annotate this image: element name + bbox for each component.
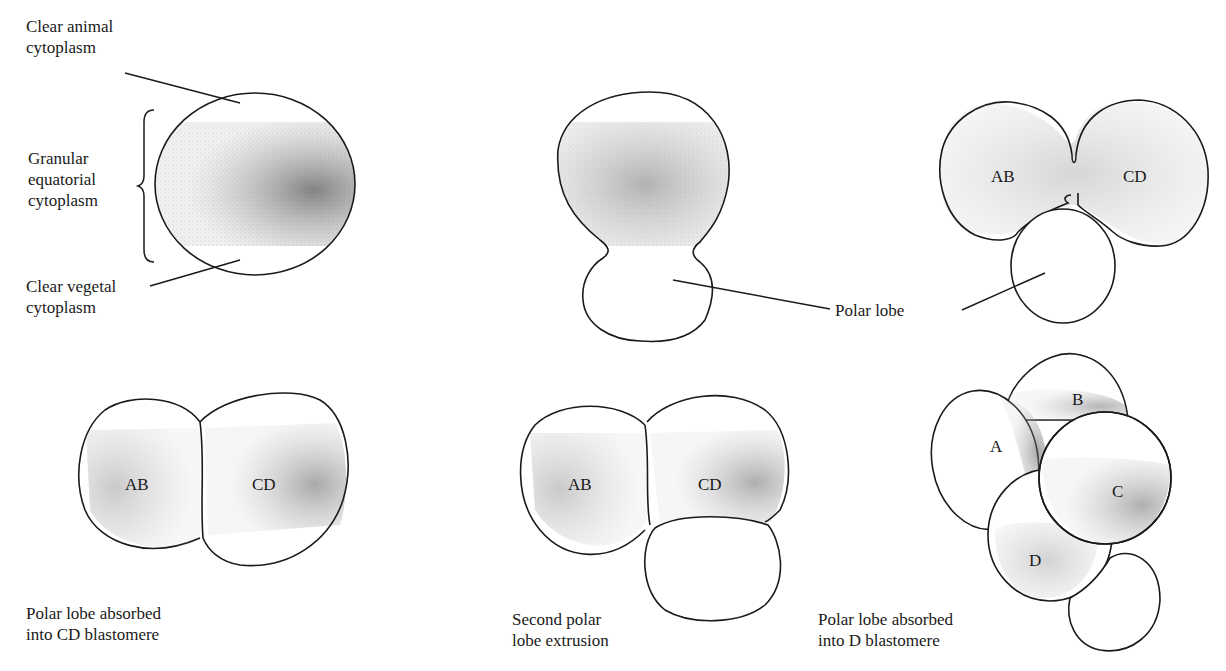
four-cell-stage: B A C D	[921, 354, 1171, 651]
label-clear-animal-cytoplasm: Clear animal cytoplasm	[26, 16, 113, 58]
second-polar-lobe-extrusion: AB CD	[521, 396, 789, 621]
cell-label-d: D	[1029, 551, 1041, 570]
two-cell-with-polar-lobe: AB CD	[940, 100, 1208, 323]
cell-label-cd-absorbed: CD	[252, 475, 276, 494]
caption-second-polar-lobe-extrusion: Second polar lobe extrusion	[512, 609, 609, 651]
cell-label-cd-top: CD	[1123, 167, 1147, 186]
vegetal-pointer-line	[150, 260, 240, 286]
embryo-cleavage-diagram: AB CD AB CD AB CD	[0, 0, 1226, 671]
equatorial-brace	[138, 110, 154, 262]
uncleaved-egg	[125, 73, 360, 286]
label-polar-lobe: Polar lobe	[835, 300, 904, 321]
label-granular-equatorial-cytoplasm: Granular equatorial cytoplasm	[28, 148, 98, 211]
caption-lobe-absorbed-cd: Polar lobe absorbed into CD blastomere	[26, 603, 161, 645]
polar-lobe-formation-stage	[555, 92, 830, 342]
label-clear-vegetal-cytoplasm: Clear vegetal cytoplasm	[26, 276, 116, 318]
cell-label-ab-top: AB	[991, 167, 1015, 186]
cell-label-cd-second: CD	[698, 475, 722, 494]
cell-label-a: A	[990, 437, 1003, 456]
cell-label-b: B	[1072, 390, 1083, 409]
two-cell-lobe-absorbed: AB CD	[79, 393, 348, 566]
cell-label-c: C	[1112, 482, 1123, 501]
cell-label-ab-second: AB	[568, 475, 592, 494]
polar-lobe-pointer-left	[673, 280, 830, 309]
cell-label-ab-absorbed: AB	[125, 475, 149, 494]
caption-lobe-absorbed-d: Polar lobe absorbed into D blastomere	[818, 609, 953, 651]
animal-pointer-line	[125, 73, 240, 103]
